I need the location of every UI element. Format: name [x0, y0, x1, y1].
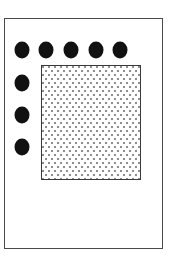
dot-marker	[15, 139, 30, 156]
dot-marker	[39, 42, 54, 59]
dot-marker	[15, 75, 30, 92]
stippled-area	[41, 65, 141, 180]
dot-marker	[89, 42, 104, 59]
dot-marker	[113, 42, 128, 59]
dot-marker	[64, 42, 79, 59]
dot-marker	[15, 42, 30, 59]
dot-marker	[15, 107, 30, 124]
